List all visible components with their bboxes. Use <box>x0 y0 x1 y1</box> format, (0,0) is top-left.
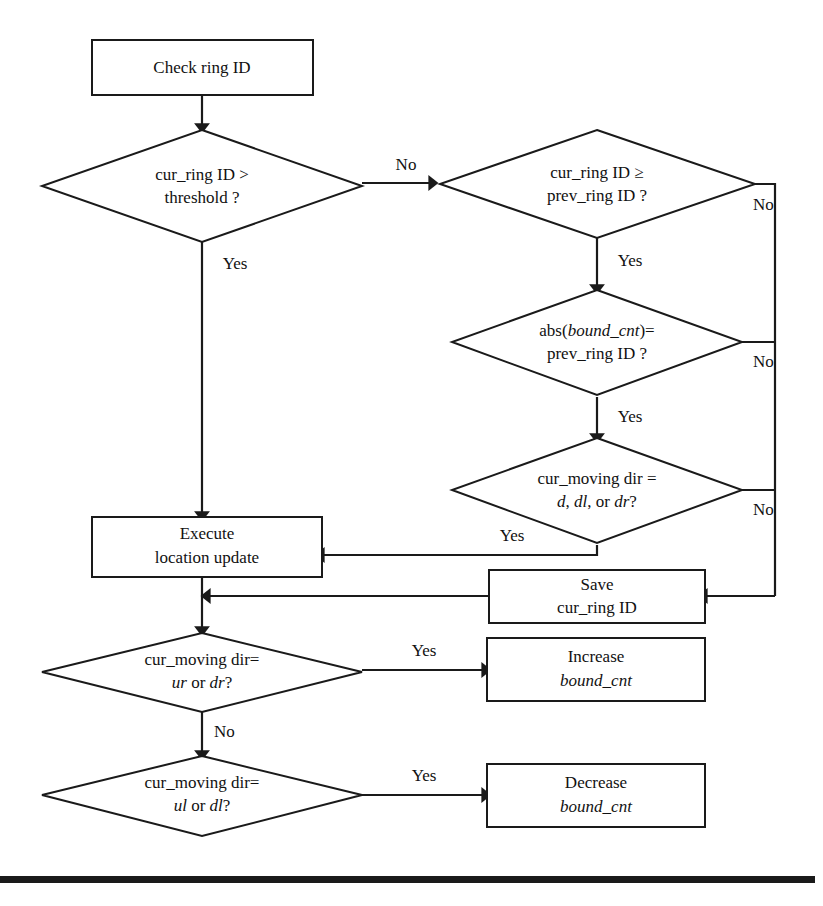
urdr-dr: dr <box>210 673 226 692</box>
node-cur-ring-gt-threshold[interactable] <box>42 130 362 242</box>
flowchart-diagram: Check ring ID cur_ring ID > threshold ? … <box>0 0 823 906</box>
node-cur-moving-dir-d-dl-dr[interactable] <box>452 438 742 543</box>
edge-ge-prev-no <box>755 184 775 596</box>
node-check-ring-id-label: Check ring ID <box>153 58 250 77</box>
edge-label-urdr-no: No <box>214 722 235 741</box>
dir-dr: dr <box>614 492 630 511</box>
edge-label-dir-ddldr-yes: Yes <box>500 526 525 545</box>
node-cur-moving-dir-ur-dr-line1: cur_moving dir= <box>145 650 260 669</box>
urdr-q: ? <box>225 673 233 692</box>
node-cur-ring-gt-threshold-line2: threshold ? <box>164 188 239 207</box>
abs-prefix: abs( <box>539 321 568 340</box>
node-cur-moving-dir-ul-dl-line2: ul or dl? <box>174 796 231 815</box>
abs-var: bound_cnt <box>568 321 641 340</box>
node-cur-moving-dir-d-dl-dr-line2: d, dl, or dr? <box>557 492 637 511</box>
dir-sep2: , or <box>587 492 614 511</box>
dir-q: ? <box>629 492 637 511</box>
node-abs-bound-cnt-eq-prev-line1: abs(bound_cnt)= <box>539 321 654 340</box>
node-increase-bound-cnt-line2: bound_cnt <box>560 671 633 690</box>
node-decrease-bound-cnt-line2: bound_cnt <box>560 797 633 816</box>
uldl-dl: dl <box>210 796 224 815</box>
node-cur-moving-dir-ul-dl-line1: cur_moving dir= <box>145 773 260 792</box>
node-execute-location-update-line1: Execute <box>180 524 235 543</box>
dir-sep1: , <box>566 492 575 511</box>
flowchart-canvas: Check ring ID cur_ring ID > threshold ? … <box>0 0 823 906</box>
node-decrease-bound-cnt-line1: Decrease <box>565 773 627 792</box>
uldl-or: or <box>187 796 210 815</box>
edge-label-threshold-no: No <box>396 155 417 174</box>
node-abs-bound-cnt-eq-prev-line2: prev_ring ID ? <box>547 344 647 363</box>
edge-label-threshold-yes: Yes <box>223 254 248 273</box>
uldl-q: ? <box>223 796 231 815</box>
edge-label-dir-ddldr-no: No <box>753 500 774 519</box>
node-save-cur-ring-id-line1: Save <box>580 575 613 594</box>
node-increase-bound-cnt-line1: Increase <box>568 647 625 666</box>
edge-label-ge-prev-no: No <box>753 195 774 214</box>
edge-label-abs-yes: Yes <box>618 407 643 426</box>
abs-suffix: )= <box>639 321 654 340</box>
node-cur-moving-dir-ur-dr-line2: ur or dr? <box>172 673 232 692</box>
node-execute-location-update-line2: location update <box>155 548 259 567</box>
node-cur-ring-gt-threshold-line1: cur_ring ID > <box>155 165 249 184</box>
edge-label-abs-no: No <box>753 352 774 371</box>
node-cur-ring-ge-prev-ring[interactable] <box>440 130 755 238</box>
edge-dir-ddldr-yes <box>322 545 597 555</box>
node-cur-ring-ge-prev-ring-line2: prev_ring ID ? <box>547 186 647 205</box>
dir-dl: dl <box>574 492 588 511</box>
urdr-or: or <box>187 673 210 692</box>
node-save-cur-ring-id-line2: cur_ring ID <box>557 598 637 617</box>
edge-label-uldl-yes: Yes <box>412 766 437 785</box>
edge-label-urdr-yes: Yes <box>412 641 437 660</box>
node-cur-ring-ge-prev-ring-line1: cur_ring ID ≥ <box>550 163 643 182</box>
node-abs-bound-cnt-eq-prev[interactable] <box>452 290 742 395</box>
node-cur-moving-dir-d-dl-dr-line1: cur_moving dir = <box>537 469 656 488</box>
edge-label-ge-prev-yes: Yes <box>618 251 643 270</box>
bottom-divider-rule <box>0 876 815 883</box>
uldl-ul: ul <box>174 796 188 815</box>
urdr-ur: ur <box>172 673 188 692</box>
